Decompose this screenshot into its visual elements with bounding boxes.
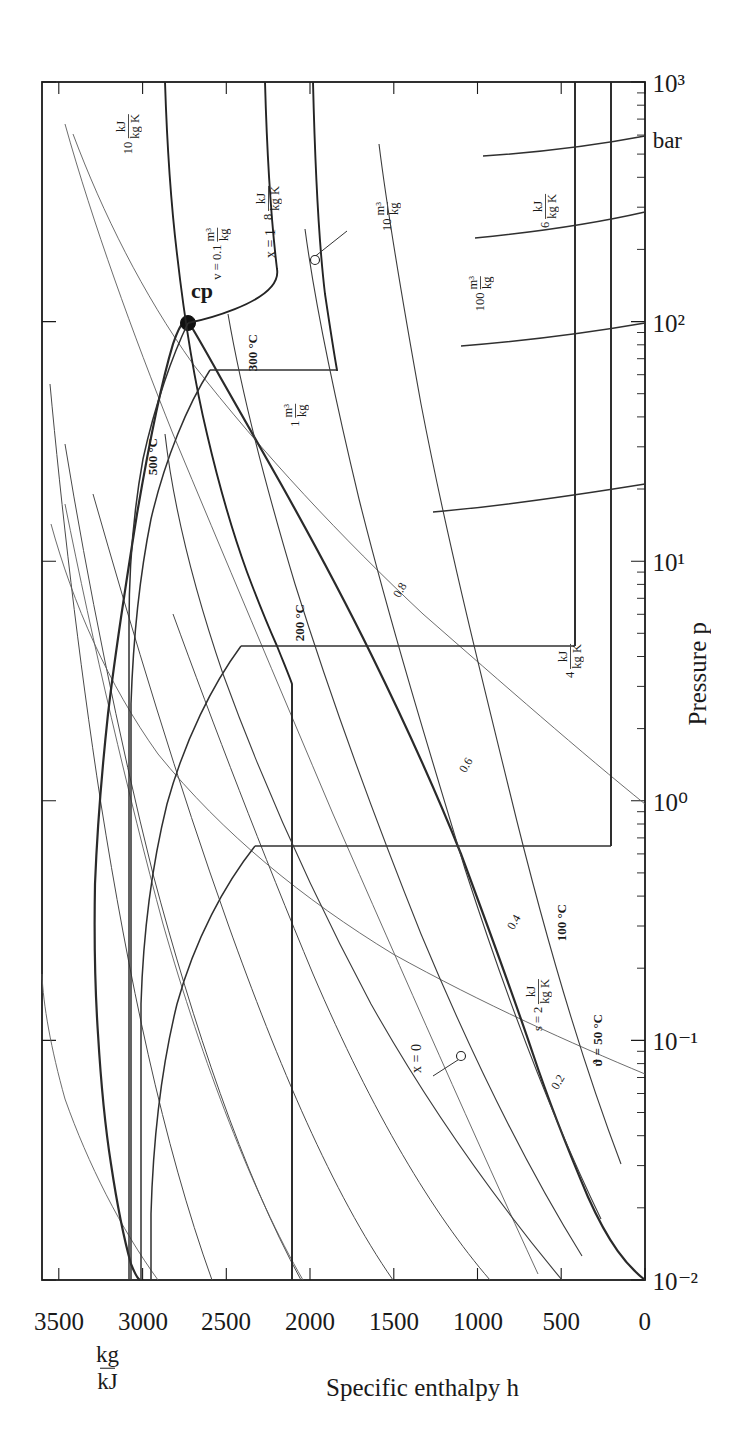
y-axis-unit-bar: bar <box>653 128 723 154</box>
unit-kg-den: kg <box>388 202 401 215</box>
x-axis-title: Specific enthalpy h <box>263 1374 583 1402</box>
label-isotherm-200: 200 °C <box>292 604 310 641</box>
x-tick-label-0: 0 <box>605 1308 685 1336</box>
unit-m3-num: m³ <box>204 228 217 241</box>
label-isotherm-500: 500 °C <box>145 438 163 475</box>
rotated-figure-container: 10⁻² 10⁻¹ 10⁰ 10¹ 10² 10³ bar Pressure p <box>0 0 733 1444</box>
y-tick-label-1e2: 10² <box>653 310 723 338</box>
label-isotherm-100: 100 °C <box>554 904 572 941</box>
unit-kgK-den: kg K <box>546 194 559 219</box>
unit-kg-denominator: kg <box>97 1343 120 1367</box>
label-isochore-100: 100 m³ kg <box>467 276 493 311</box>
x-tick-label-2500: 2500 <box>186 1308 266 1336</box>
unit-kgK-den: kg K <box>539 979 552 1004</box>
unit-kJ-num: kJ <box>557 644 570 669</box>
unit-kg-den: kg <box>481 276 494 289</box>
x-tick-label-1500: 1500 <box>354 1308 434 1336</box>
label-x-zero: x = 0 <box>409 1044 427 1073</box>
unit-kgK-den: kg K <box>571 644 584 669</box>
label-isotherm-50: ϑ = 50 °C <box>590 1014 608 1067</box>
label-critical-point: cp <box>191 278 213 304</box>
label-isotherm-300: 300 °C <box>245 334 263 371</box>
label-quality-02: 0.2 <box>548 1072 571 1094</box>
x-tick-label-500: 500 <box>521 1308 601 1336</box>
figure-page: 10⁻² 10⁻¹ 10⁰ 10¹ 10² 10³ bar Pressure p <box>0 0 733 1444</box>
label-isochore-01: v = 0.1 m³ kg <box>204 228 230 280</box>
y-tick-label-1e-1: 10⁻¹ <box>653 1027 723 1056</box>
y-axis-title: Pressure p <box>684 544 712 804</box>
unit-kgK-den: kg K <box>129 114 142 139</box>
unit-kg-den: kg <box>296 404 309 417</box>
label-quality-04: 0.4 <box>504 912 527 934</box>
label-x-one: x = 1 <box>263 229 281 258</box>
label-isentrope-10: 10 kJ kg K <box>115 114 141 154</box>
unit-kJ-num: kJ <box>115 114 128 139</box>
label-quality-06: 0.6 <box>456 755 479 777</box>
y-tick-label-1e-2: 10⁻² <box>653 1267 723 1296</box>
unit-m3-num: m³ <box>374 202 387 215</box>
label-isentrope-2: s = 2 kJ kg K <box>525 979 551 1031</box>
unit-kJ-num: kJ <box>532 194 545 219</box>
unit-m3-num: m³ <box>467 276 480 289</box>
label-isochore-1: 1 m³ kg <box>282 404 308 427</box>
unit-m3-num: m³ <box>282 404 295 417</box>
label-isentrope-6: 6 kJ kg K <box>532 194 558 228</box>
x-axis-unit: kg kJ <box>53 1343 163 1394</box>
x-tick-label-2000: 2000 <box>270 1308 350 1336</box>
unit-kJ-numerator: kJ <box>97 1370 120 1394</box>
label-isentrope-4: 4 kJ kg K <box>557 644 583 678</box>
unit-kgK-den: kg K <box>269 186 282 211</box>
label-isentrope-8: 8 kJ kg K <box>255 186 281 220</box>
y-tick-label-1e3: 10³ <box>653 70 723 98</box>
label-quality-08: 0.8 <box>390 580 413 602</box>
x-tick-label-3500: 3500 <box>19 1308 99 1336</box>
x-tick-label-3000: 3000 <box>103 1308 183 1336</box>
unit-kg-den: kg <box>218 228 231 241</box>
unit-kJ-num: kJ <box>525 979 538 1004</box>
unit-kJ-num: kJ <box>255 186 268 211</box>
x-tick-label-1000: 1000 <box>438 1308 518 1336</box>
label-isochore-10: 10 m³ kg <box>374 202 400 231</box>
